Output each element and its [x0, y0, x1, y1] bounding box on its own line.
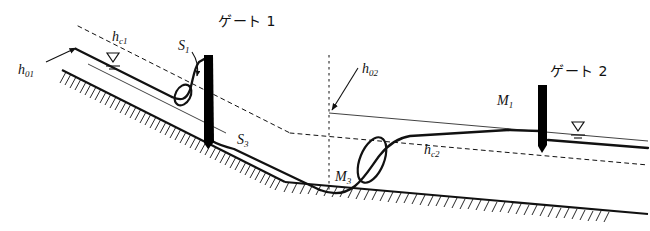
- bed-line-steep: [62, 70, 285, 182]
- water-surface-upstream-approach: [76, 49, 172, 97]
- water-surface-s1-backwater: [172, 58, 206, 99]
- critical-depth-line-hc2: [290, 133, 648, 165]
- water-surface-downstream-gate-2: [548, 140, 648, 148]
- bed-hatching-mild: [284, 182, 609, 222]
- sluice-gate-1: [204, 55, 214, 149]
- channel-bed-hatched: [60, 70, 648, 222]
- leader-arrow-h02: [332, 68, 358, 110]
- diagram-canvas: [0, 0, 650, 231]
- hydraulics-profile-figure: h01 hc1 S1 ゲート 1 S3 M3 h02 hc2 M1 ゲート 2: [0, 0, 650, 231]
- label-h01: h01: [18, 63, 34, 77]
- leader-arrow-h01: [46, 48, 76, 62]
- bed-line-mild: [285, 182, 648, 214]
- bed-hatching-steep: [60, 72, 281, 190]
- sluice-gate-2: [538, 85, 547, 153]
- label-gate-1: ゲート 1: [218, 14, 276, 28]
- label-s1: S1: [178, 39, 190, 53]
- label-hc1: hc1: [112, 30, 128, 44]
- label-gate-2: ゲート 2: [550, 64, 608, 78]
- label-m3: M3: [335, 170, 351, 184]
- label-h02: h02: [362, 62, 378, 76]
- label-s3: S3: [237, 133, 249, 147]
- label-hc2: hc2: [424, 143, 440, 157]
- label-m1: M1: [497, 94, 513, 108]
- water-surface-m1-backwater: [508, 130, 540, 131]
